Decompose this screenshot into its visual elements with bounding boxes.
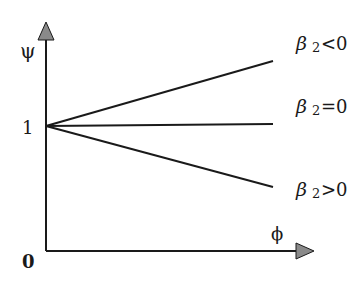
- line-beta2-zero: [46, 124, 273, 126]
- y-tick-label: 1: [22, 117, 33, 138]
- beta-symbol: β: [295, 32, 307, 54]
- subscript: 2: [312, 103, 320, 118]
- y-axis-arrowhead-icon: [38, 22, 54, 40]
- beta-symbol: β: [295, 95, 307, 117]
- line-beta2-positive: [46, 126, 273, 187]
- beta-symbol: β: [295, 178, 307, 200]
- label-beta2-negative: β 2 <0: [295, 32, 348, 55]
- subscript: 2: [312, 40, 320, 55]
- origin-label: 0: [22, 251, 35, 272]
- diagram-canvas: ψ ϕ 0 1 β 2 <0 β 2 =0 β 2 >0: [0, 0, 361, 285]
- y-axis-label: ψ: [20, 39, 36, 63]
- line-beta2-negative: [46, 61, 273, 126]
- relation: =0: [321, 96, 348, 117]
- label-beta2-positive: β 2 >0: [295, 178, 348, 201]
- x-axis-label: ϕ: [271, 223, 283, 244]
- label-beta2-zero: β 2 =0: [295, 95, 348, 118]
- relation: <0: [321, 33, 348, 54]
- relation: >0: [321, 179, 348, 200]
- subscript: 2: [312, 186, 320, 201]
- x-axis-arrowhead-icon: [296, 243, 314, 259]
